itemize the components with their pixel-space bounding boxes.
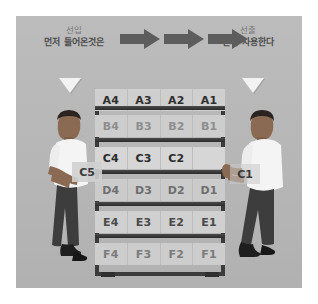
shelf-divider-2 [95, 138, 225, 142]
slot-d3: D3 [128, 179, 161, 201]
shelf-divider-4 [95, 202, 225, 206]
slot-e3: E3 [128, 211, 161, 233]
marker-right-triangle-down-icon [242, 78, 264, 93]
marker-left-triangle-down-icon [59, 78, 81, 93]
rack-row-f: F4 F3 F2 F1 [95, 240, 225, 268]
shelf-divider-5 [95, 234, 225, 238]
rack-foot-right [205, 272, 219, 277]
rack-row-d: D4 D3 D2 D1 [95, 176, 225, 204]
slot-f3: F3 [128, 243, 161, 265]
fifo-panel: 선입 먼저 들어온것은 선출 먼저 사용한다 [16, 16, 302, 288]
diagram-canvas: 선입 먼저 들어온것은 선출 먼저 사용한다 [0, 0, 318, 304]
flow-arrow-3-icon [208, 29, 248, 49]
flow-arrow-2-icon [164, 29, 204, 49]
slot-e2: E2 [161, 211, 194, 233]
slot-b2: B2 [161, 115, 194, 137]
header-left-term: 선입 [20, 25, 128, 36]
rack-row-b: B4 B3 B2 B1 [95, 112, 225, 140]
flow-arrow-1-icon [120, 29, 160, 49]
header-left-description: 먼저 들어온것은 [20, 37, 128, 48]
slot-b3: B3 [128, 115, 161, 137]
rack-row-e: E4 E3 E2 E1 [95, 208, 225, 236]
slot-d2: D2 [161, 179, 194, 201]
shelf-divider-1 [95, 106, 225, 110]
slot-c2: C2 [161, 147, 194, 169]
worker-left [38, 104, 100, 274]
carried-box-left-c5: C5 [72, 162, 102, 182]
carried-box-right-c1: C1 [230, 164, 260, 184]
slot-c3: C3 [128, 147, 161, 169]
header-left-text: 선입 먼저 들어온것은 [20, 25, 128, 48]
rack-row-c: C4 C3 C2 [95, 144, 225, 172]
storage-rack: A4 A3 A2 A1 B4 B3 B2 B1 C4 C3 C2 [95, 86, 225, 276]
shelf-divider-3 [95, 170, 225, 174]
worker-right [220, 104, 290, 274]
rack-foot-left [101, 272, 115, 277]
slot-f2: F2 [161, 243, 194, 265]
